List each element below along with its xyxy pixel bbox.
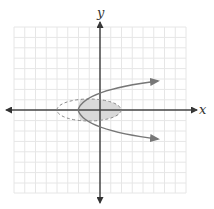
y-axis-label: y: [96, 5, 105, 20]
coordinate-graph: y x: [0, 0, 214, 209]
x-axis-label: x: [199, 102, 207, 117]
